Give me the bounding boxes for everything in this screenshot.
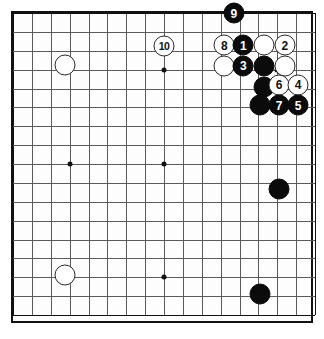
stone-label: 1 (240, 39, 247, 51)
stone-b-e[interactable] (250, 284, 271, 305)
go-board: 98123647510 (11, 11, 313, 323)
grid-line-horizontal (13, 202, 315, 203)
stone-label: 7 (276, 99, 283, 111)
star-point-left (67, 162, 72, 167)
stone-7[interactable]: 7 (269, 95, 290, 116)
grid-line-horizontal (13, 145, 315, 146)
stone-b-c[interactable] (250, 95, 271, 116)
stone-label: 5 (295, 99, 302, 111)
stone-b-a[interactable] (254, 55, 275, 76)
star-point-upper-right (162, 67, 167, 72)
stone-w-b[interactable] (214, 55, 235, 76)
stone-label: 10 (159, 41, 170, 52)
stone-6[interactable]: 6 (269, 74, 290, 95)
stone-w-e[interactable] (54, 265, 75, 286)
stone-label: 2 (281, 39, 288, 51)
grid-line-horizontal (13, 315, 315, 316)
stone-8[interactable]: 8 (214, 35, 235, 56)
stone-5[interactable]: 5 (288, 95, 309, 116)
stone-label: 8 (221, 39, 228, 51)
stone-3[interactable]: 3 (233, 55, 254, 76)
stone-2[interactable]: 2 (274, 35, 295, 56)
grid-line-horizontal (13, 13, 315, 14)
stone-label: 6 (276, 79, 283, 91)
star-point-lower-center (162, 275, 167, 280)
grid-line-horizontal (13, 32, 315, 33)
stone-4[interactable]: 4 (288, 74, 309, 95)
stone-label: 3 (240, 60, 247, 72)
grid-line-vertical (315, 13, 316, 315)
stone-9[interactable]: 9 (223, 3, 244, 24)
stone-b-d[interactable] (269, 178, 290, 199)
grid-line-horizontal (13, 126, 315, 127)
stone-w-a[interactable] (254, 35, 275, 56)
grid-line-horizontal (13, 240, 315, 241)
stone-10[interactable]: 10 (154, 36, 175, 57)
grid-line-horizontal (13, 221, 315, 222)
star-point-center (162, 162, 167, 167)
stone-label: 4 (295, 79, 302, 91)
stone-w-c[interactable] (274, 55, 295, 76)
stone-1[interactable]: 1 (233, 35, 254, 56)
stone-w-d[interactable] (54, 54, 75, 75)
grid-line-horizontal (13, 258, 315, 259)
go-diagram: 98123647510 (0, 0, 324, 339)
stone-label: 9 (230, 7, 237, 19)
